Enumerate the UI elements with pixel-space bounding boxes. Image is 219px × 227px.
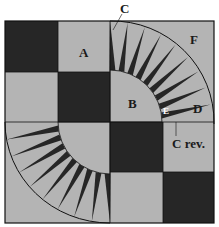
label-F: F — [190, 32, 198, 47]
label-A: A — [79, 45, 89, 60]
label-C-rev: C rev. — [172, 136, 205, 151]
label-C: C — [120, 1, 129, 16]
label-B: B — [128, 96, 137, 111]
square-light-mid-left — [5, 72, 58, 122]
square-light-bottom-center — [110, 172, 163, 223]
square-dark-bottom-right — [163, 172, 214, 223]
label-E: E — [163, 106, 169, 116]
square-dark-center-left — [58, 72, 110, 122]
label-D: D — [193, 101, 202, 116]
square-dark-center-right — [110, 122, 163, 172]
square-dark-top-left — [5, 21, 58, 72]
quilt-block-diagram: C F A B E D C rev. — [0, 0, 219, 227]
